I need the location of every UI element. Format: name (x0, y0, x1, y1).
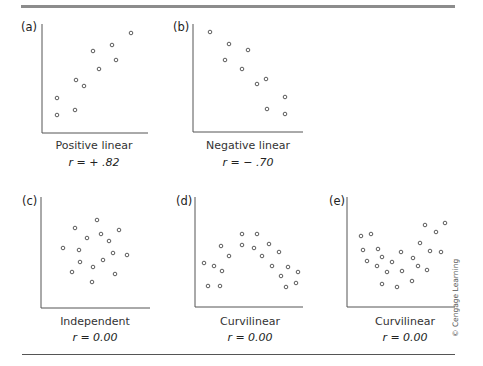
data-point (416, 264, 420, 268)
data-point (77, 248, 81, 252)
panel-a-r-value: r = + .82 (24, 156, 164, 169)
data-point (55, 113, 59, 117)
data-point (99, 232, 103, 236)
data-point (375, 264, 379, 268)
data-point (74, 78, 78, 82)
panel-b-caption: Negative linear (178, 139, 318, 152)
data-point (425, 268, 429, 272)
data-point (85, 236, 89, 240)
data-point (376, 247, 380, 251)
panel-e-letter: (e) (329, 194, 345, 208)
scatter-panel-b (193, 24, 303, 132)
data-point (423, 223, 427, 227)
data-point (284, 285, 288, 289)
panel-c-caption: Independent (25, 315, 165, 328)
axes (193, 24, 303, 132)
data-point (82, 84, 86, 88)
data-point (227, 42, 231, 46)
data-point (296, 270, 300, 274)
bottom-rule (22, 354, 455, 355)
data-point (255, 82, 259, 86)
axes (41, 197, 150, 308)
data-point (227, 254, 231, 258)
data-point (395, 285, 399, 289)
data-point (113, 272, 117, 276)
data-point (223, 58, 227, 62)
panel-a-caption: Positive linear (24, 139, 164, 152)
data-point (218, 284, 222, 288)
data-point (220, 269, 224, 273)
data-point (70, 270, 74, 274)
data-point (206, 284, 210, 288)
data-point (428, 249, 432, 253)
panel-b-r-value: r = − .70 (178, 156, 318, 169)
data-point (97, 67, 101, 71)
data-point (283, 112, 287, 116)
data-point (129, 31, 133, 35)
copyright-credit: © Cengage Learning (451, 259, 460, 337)
data-point (219, 244, 223, 248)
data-point (61, 246, 65, 250)
data-point (110, 43, 114, 47)
data-point (111, 251, 115, 255)
data-point (107, 239, 111, 243)
scatter-plots (0, 0, 483, 366)
data-point (267, 242, 271, 246)
data-point (385, 270, 389, 274)
data-point (434, 230, 438, 234)
data-point (439, 250, 443, 254)
data-point (411, 256, 415, 260)
data-point (117, 228, 121, 232)
data-point (78, 260, 82, 264)
data-point (95, 218, 99, 222)
data-point (55, 96, 59, 100)
data-point (212, 264, 216, 268)
panel-c-letter: (c) (22, 194, 37, 208)
axes (195, 197, 303, 307)
panel-d-caption: Curvilinear (180, 315, 320, 328)
panel-c-r-value: r = 0.00 (25, 331, 165, 344)
panel-d-r-value: r = 0.00 (180, 331, 320, 344)
data-point (240, 67, 244, 71)
data-point (240, 243, 244, 247)
data-point (279, 274, 283, 278)
data-point (246, 48, 250, 52)
panel-d-letter: (d) (176, 194, 192, 208)
data-point (73, 108, 77, 112)
data-point (264, 77, 268, 81)
data-point (380, 255, 384, 259)
data-point (410, 279, 414, 283)
data-point (252, 246, 256, 250)
data-point (255, 232, 259, 236)
scatter-panel-e (347, 197, 455, 307)
data-point (73, 226, 77, 230)
data-point (443, 221, 447, 225)
panel-b-letter: (b) (173, 20, 189, 34)
data-point (286, 265, 290, 269)
data-point (101, 258, 105, 262)
data-point (91, 49, 95, 53)
data-point (114, 58, 118, 62)
data-point (270, 264, 274, 268)
data-point (260, 254, 264, 258)
data-point (294, 281, 298, 285)
scatter-panel-a (42, 24, 148, 133)
data-point (400, 269, 404, 273)
data-point (365, 259, 369, 263)
data-point (125, 253, 129, 257)
data-point (359, 234, 363, 238)
data-point (418, 241, 422, 245)
data-point (90, 280, 94, 284)
data-point (208, 30, 212, 34)
data-point (390, 260, 394, 264)
scatter-panel-d (195, 197, 303, 307)
data-point (399, 250, 403, 254)
scatter-panel-c (41, 197, 150, 308)
data-point (380, 282, 384, 286)
data-point (369, 232, 373, 236)
data-point (283, 95, 287, 99)
data-point (91, 265, 95, 269)
data-point (361, 248, 365, 252)
panel-a-letter: (a) (21, 20, 37, 34)
data-point (240, 232, 244, 236)
